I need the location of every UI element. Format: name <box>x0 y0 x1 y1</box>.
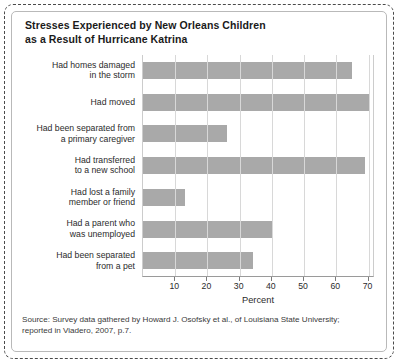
bar-row <box>143 87 373 119</box>
category-label: Had moved <box>11 97 135 108</box>
x-axis-title: Percent <box>142 295 374 305</box>
category-label: Had homes damagedin the storm <box>11 60 135 81</box>
gridline-30 <box>240 55 241 276</box>
figure-content: Stresses Experienced by New Orleans Chil… <box>11 11 387 352</box>
category-label: Had a parent whowas unemployed <box>11 218 135 239</box>
plot-area <box>142 55 374 277</box>
category-label-line: to a new school <box>11 165 135 176</box>
bar-row <box>143 150 373 182</box>
tick-label-20: 20 <box>191 281 221 291</box>
bar-row <box>143 245 373 277</box>
tick-label-40: 40 <box>256 281 286 291</box>
gridline-50 <box>304 55 305 276</box>
figure-container: Stresses Experienced by New Orleans Chil… <box>0 0 398 363</box>
tick-label-60: 60 <box>320 281 350 291</box>
category-label-line: Had lost a family <box>11 187 135 198</box>
category-label-line: in the storm <box>11 70 135 81</box>
tick-label-70: 70 <box>353 281 383 291</box>
bar <box>143 189 185 206</box>
gridline-70 <box>369 55 370 276</box>
category-label: Had been separated froma primary caregiv… <box>11 123 135 144</box>
bar <box>143 157 365 174</box>
bar-row <box>143 214 373 246</box>
category-label-line: was unemployed <box>11 229 135 240</box>
source-line-2: reported in Viadero, 2007, p.7. <box>22 325 362 336</box>
tick-label-50: 50 <box>288 281 318 291</box>
category-label-line: Had transferred <box>11 155 135 166</box>
category-label-line: a primary caregiver <box>11 134 135 145</box>
bar <box>143 252 253 269</box>
figure-title: Stresses Experienced by New Orleans Chil… <box>25 19 325 46</box>
category-label-line: Had been separated from <box>11 123 135 134</box>
bar-series <box>143 55 373 276</box>
gridline-60 <box>336 55 337 276</box>
category-label-line: from a pet <box>11 261 135 272</box>
bar <box>143 125 227 142</box>
bar <box>143 94 369 111</box>
gridline-10 <box>175 55 176 276</box>
category-label-line: Had a parent who <box>11 218 135 229</box>
gridline-40 <box>272 55 273 276</box>
tick-label-10: 10 <box>159 281 189 291</box>
category-label: Had been separatedfrom a pet <box>11 250 135 271</box>
title-line-1: Stresses Experienced by New Orleans Chil… <box>25 19 325 33</box>
category-label: Had lost a familymember or friend <box>11 187 135 208</box>
category-label-line: Had moved <box>11 97 135 108</box>
source-line-1: Source: Survey data gathered by Howard J… <box>22 314 362 325</box>
bar-row <box>143 118 373 150</box>
bar-row <box>143 182 373 214</box>
category-label-line: Had been separated <box>11 250 135 261</box>
category-label: Had transferredto a new school <box>11 155 135 176</box>
category-label-line: Had homes damaged <box>11 60 135 71</box>
bar-chart: Had homes damagedin the stormHad movedHa… <box>11 55 387 305</box>
bar-row <box>143 55 373 87</box>
title-line-2: as a Result of Hurricane Katrina <box>25 33 325 47</box>
category-labels: Had homes damagedin the stormHad movedHa… <box>11 55 139 277</box>
source-note: Source: Survey data gathered by Howard J… <box>22 314 362 336</box>
category-label-line: member or friend <box>11 197 135 208</box>
tick-label-30: 30 <box>224 281 254 291</box>
gridline-20 <box>207 55 208 276</box>
